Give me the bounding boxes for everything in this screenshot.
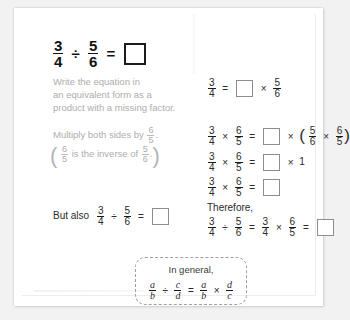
times-icon: ×: [288, 131, 294, 142]
times-icon: ×: [323, 131, 329, 142]
step2-prompt-period: .: [155, 129, 158, 140]
title-fraction-left: 3 4: [53, 38, 63, 70]
open-paren: (: [299, 131, 305, 142]
therefore-label: Therefore,: [207, 202, 253, 213]
step2-prompt: Multiply both sides by 6 5 .: [53, 126, 158, 145]
fraction-c: 3 4: [262, 217, 270, 238]
denominator: 6: [273, 89, 281, 99]
but-also-equation: But also 3 4 ÷ 5 6 =: [53, 206, 171, 227]
close-paren: ): [344, 131, 350, 142]
equals-sign-2: =: [303, 222, 309, 233]
in-general-equation: a b ÷ c d = a b × d c: [136, 280, 246, 301]
fraction-b: 5 6: [235, 217, 243, 238]
step2-prompt-text: Multiply both sides by: [53, 129, 144, 140]
worksheet-page: 3 4 ÷ 5 6 = Write the equation in an equ…: [14, 8, 323, 306]
fraction-a-over-b: a b: [149, 280, 156, 301]
inverse-fraction-2: 5 6: [142, 145, 149, 164]
step2-equation-1: 3 4 × 6 5 = × ( 5 6 × 6 5 ): [207, 126, 350, 147]
step1-prompt-line-3: product with a missing factor.: [53, 101, 176, 114]
answer-blank[interactable]: [263, 154, 280, 171]
fraction-c-over-d: c d: [174, 280, 181, 301]
equals-sign: =: [249, 157, 255, 168]
equals-sign: =: [249, 131, 255, 142]
denominator: 5: [235, 163, 243, 173]
fraction-lhs: 3 4: [208, 78, 216, 99]
fraction-d: 6 5: [336, 126, 344, 147]
fraction-b: 6 5: [235, 177, 243, 198]
denominator: 5: [235, 188, 243, 198]
fraction-right: 5 6: [124, 206, 132, 227]
step2-inverse-note: ( 6 5 is the inverse of 5 6 .): [50, 145, 160, 164]
equals-sign: =: [106, 45, 115, 62]
open-paren: (: [50, 149, 57, 163]
fraction-a-over-b-2: a b: [200, 280, 207, 301]
answer-blank[interactable]: [124, 43, 146, 65]
denominator: c: [226, 291, 233, 301]
times-icon: ×: [222, 157, 228, 168]
denominator: 4: [208, 89, 216, 99]
denominator: 4: [208, 137, 216, 147]
title-fraction-right: 5 6: [88, 38, 98, 70]
denominator: 4: [97, 217, 105, 227]
equals-sign-1: =: [249, 222, 255, 233]
denominator: 5: [336, 137, 344, 147]
book-spine-shadow: [192, 14, 196, 74]
denominator: 6: [124, 217, 132, 227]
denominator: 6: [309, 137, 317, 147]
times-icon: ×: [214, 285, 220, 296]
times-icon: ×: [222, 182, 228, 193]
fraction-a: 3 4: [208, 177, 216, 198]
operand-one: 1: [299, 156, 305, 167]
fraction-left: 3 4: [97, 206, 105, 227]
denominator: 6: [235, 228, 243, 238]
answer-blank[interactable]: [152, 208, 169, 225]
inverse-fraction-1: 6 5: [61, 145, 68, 164]
fraction-a: 3 4: [208, 217, 216, 238]
fraction-b: 6 5: [235, 126, 243, 147]
equals-sign: =: [222, 83, 228, 94]
fraction-a: 3 4: [208, 126, 216, 147]
denominator: 4: [208, 228, 216, 238]
answer-blank[interactable]: [317, 219, 334, 236]
denominator: 5: [61, 155, 68, 164]
numerator: 5: [88, 38, 98, 54]
denominator: 5: [289, 228, 297, 238]
times-icon: ×: [222, 131, 228, 142]
fraction-b: 6 5: [235, 152, 243, 173]
denominator: 4: [262, 228, 270, 238]
equals-sign: =: [249, 182, 255, 193]
answer-blank[interactable]: [263, 128, 280, 145]
denominator: 6: [142, 155, 149, 164]
denominator: 6: [88, 54, 98, 69]
times-icon: ×: [288, 157, 294, 168]
fraction-a: 3 4: [208, 152, 216, 173]
denominator: 4: [208, 163, 216, 173]
in-general-title: In general,: [136, 264, 246, 275]
step1-prompt-line-1: Write the equation in: [53, 75, 176, 88]
answer-blank[interactable]: [263, 179, 280, 196]
step1-prompt: Write the equation in an equivalent form…: [53, 75, 176, 114]
denominator: d: [174, 291, 181, 301]
close-paren: ): [152, 149, 159, 163]
therefore-equation: 3 4 ÷ 5 6 = 3 4 × 6 5 =: [207, 217, 336, 238]
equals-sign: =: [138, 211, 144, 222]
but-also-label: But also: [53, 210, 89, 221]
in-general-box: In general, a b ÷ c d = a b × d: [135, 257, 247, 305]
fraction-d: 6 5: [289, 217, 297, 238]
denominator: b: [200, 291, 207, 301]
divide-icon: ÷: [222, 222, 228, 233]
denominator: b: [149, 291, 156, 301]
times-icon: ×: [261, 83, 267, 94]
divide-icon: ÷: [162, 285, 168, 296]
numerator: 3: [53, 38, 63, 54]
denominator: 5: [235, 137, 243, 147]
inverse-note-text: is the inverse of: [72, 148, 139, 159]
equals-sign: =: [188, 285, 194, 296]
step1-prompt-line-2: an equivalent form as a: [53, 88, 176, 101]
title-equation: 3 4 ÷ 5 6 =: [52, 38, 148, 70]
step2-equation-2: 3 4 × 6 5 = × 1: [207, 152, 305, 173]
answer-blank[interactable]: [236, 80, 253, 97]
fraction-c: 5 6: [309, 126, 317, 147]
fraction-d-over-c: d c: [226, 280, 233, 301]
divide-icon: ÷: [72, 45, 80, 62]
